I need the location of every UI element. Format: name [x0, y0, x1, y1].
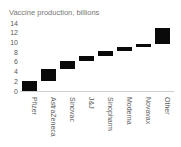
bar-sinovac — [60, 61, 75, 69]
y-tick-label-10: 10 — [10, 39, 18, 46]
y-tick-label-8: 8 — [14, 49, 18, 56]
y-tick-label-0: 0 — [14, 88, 18, 95]
x-label-pfizer: Pfizer — [31, 97, 38, 116]
y-tick-label-2: 2 — [14, 78, 18, 85]
chart-window: Vaccine production, billions 02468101214… — [0, 0, 181, 147]
waterfall-chart: Vaccine production, billions 02468101214… — [0, 0, 181, 147]
x-label-moderna: Moderna — [126, 97, 133, 125]
x-label-sinovac: Sinovac — [69, 97, 76, 122]
bars — [20, 28, 174, 91]
bar-sinopharm — [98, 51, 113, 56]
x-label-novavax: Novavax — [145, 97, 152, 125]
y-tick-label-6: 6 — [14, 58, 18, 65]
bar-pfizer — [22, 81, 37, 91]
bar-moderna — [117, 47, 132, 51]
bar-novavax — [136, 44, 151, 47]
bar-other — [155, 28, 170, 44]
chart-title: Vaccine production, billions — [9, 8, 100, 17]
y-tick-label-14: 14 — [10, 20, 18, 27]
x-label-other: Other — [164, 97, 171, 115]
x-axis: PfizerAstraZenecaSinovacJ&JSinopharmMode… — [31, 97, 171, 137]
x-label-sinopharm: Sinopharm — [106, 97, 114, 131]
x-label-j-j: J&J — [88, 97, 95, 109]
y-tick-label-12: 12 — [10, 29, 18, 36]
y-axis: 02468101214 — [10, 20, 18, 95]
x-label-astrazeneca: AstraZeneca — [50, 97, 57, 137]
bar-j-j — [79, 56, 94, 61]
bar-astrazeneca — [41, 69, 56, 81]
y-tick-label-4: 4 — [14, 68, 18, 75]
